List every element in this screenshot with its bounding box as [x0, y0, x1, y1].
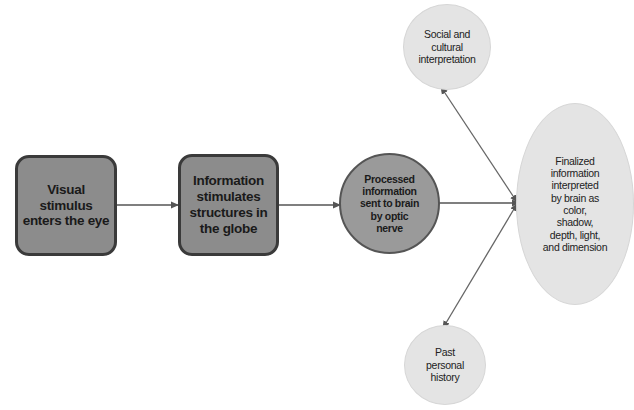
label-line: by brain as — [543, 192, 607, 204]
label-line: Finalized — [543, 155, 607, 167]
label-line: Processed — [360, 173, 419, 185]
node-visual-stimulus: Visual stimulus enters the eye — [15, 155, 117, 256]
node-information-stimulates-label: Information stimulates structures in the… — [190, 173, 268, 237]
node-finalized-information: Finalized information interpreted by bra… — [516, 103, 634, 305]
label-line: stimulates — [190, 189, 268, 205]
label-line: history — [426, 371, 464, 383]
label-line: and dimension — [543, 241, 607, 253]
node-information-stimulates: Information stimulates structures in the… — [178, 154, 279, 256]
label-line: color, — [543, 204, 607, 216]
label-line: Information — [190, 173, 268, 189]
label-line: shadow, — [543, 216, 607, 228]
label-line: Past — [426, 346, 464, 358]
node-past-personal-history-label: Past personal history — [426, 346, 464, 383]
label-line: structures in — [190, 205, 268, 221]
label-line: cultural — [418, 41, 475, 53]
node-processed-information: Processed information sent to brain by o… — [339, 153, 440, 254]
label-line: stimulus — [23, 198, 110, 214]
label-line: enters the eye — [23, 213, 110, 229]
node-processed-information-label: Processed information sent to brain by o… — [360, 173, 419, 235]
edge-n6-n4 — [443, 204, 517, 328]
label-line: information — [543, 167, 607, 179]
node-finalized-information-label: Finalized information interpreted by bra… — [543, 155, 607, 254]
label-line: sent to brain — [360, 197, 419, 209]
label-line: interpreted — [543, 179, 607, 191]
label-line: information — [360, 185, 419, 197]
label-line: interpretation — [418, 53, 475, 65]
label-line: nerve — [360, 222, 419, 234]
node-social-cultural: Social and cultural interpretation — [403, 4, 491, 90]
node-social-cultural-label: Social and cultural interpretation — [418, 28, 475, 65]
edge-n5-n4 — [441, 87, 517, 202]
node-visual-stimulus-label: Visual stimulus enters the eye — [23, 182, 110, 230]
label-line: by optic — [360, 210, 419, 222]
label-line: personal — [426, 359, 464, 371]
label-line: Social and — [418, 28, 475, 40]
label-line: the globe — [190, 221, 268, 237]
label-line: Visual — [23, 182, 110, 198]
diagram-canvas: Visual stimulus enters the eye Informati… — [0, 0, 634, 410]
node-past-personal-history: Past personal history — [404, 325, 486, 405]
label-line: depth, light, — [543, 229, 607, 241]
